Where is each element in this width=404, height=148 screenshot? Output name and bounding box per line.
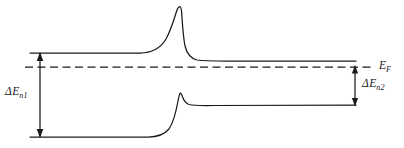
band-diagram-figure: ΔEn1 ΔEn2 EF (0, 0, 404, 148)
fermi-level-label: EF (379, 60, 391, 72)
delta-en1-arrow (37, 52, 44, 138)
band-diagram-canvas (0, 0, 404, 148)
subscript-en2: n2 (376, 83, 384, 92)
subscript-en1: n1 (19, 91, 27, 100)
subscript-ef: F (386, 65, 391, 74)
delta-en2-arrow (352, 65, 358, 107)
delta-en2-label: ΔEn2 (362, 78, 385, 90)
lower-band-edge-curve (30, 93, 356, 137)
delta-en1-label: ΔEn1 (5, 86, 28, 98)
energy-symbol-ef: E (379, 59, 386, 71)
upper-band-edge-curve (30, 7, 356, 62)
